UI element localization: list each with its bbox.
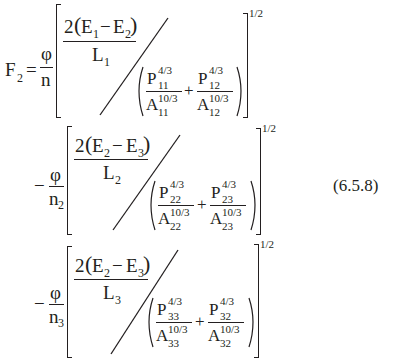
a-sub: 33	[168, 338, 179, 349]
outer-exponent: 1/2	[260, 239, 274, 250]
a-sub: 32	[220, 338, 231, 349]
p-symbol: P	[157, 301, 166, 318]
p-sub: 32	[220, 311, 231, 322]
p-exp: 4/3	[168, 296, 182, 307]
p-symbol: P	[209, 301, 218, 318]
a-exp: 10/3	[220, 324, 240, 335]
p-sub: 33	[168, 311, 179, 322]
right-bracket	[254, 244, 259, 358]
sum-parens	[0, 0, 393, 363]
p-exp: 4/3	[220, 296, 234, 307]
a-symbol: A	[156, 327, 168, 344]
a-symbol: A	[208, 327, 220, 344]
a-exp: 10/3	[168, 324, 188, 335]
plus-sign: +	[195, 313, 205, 330]
